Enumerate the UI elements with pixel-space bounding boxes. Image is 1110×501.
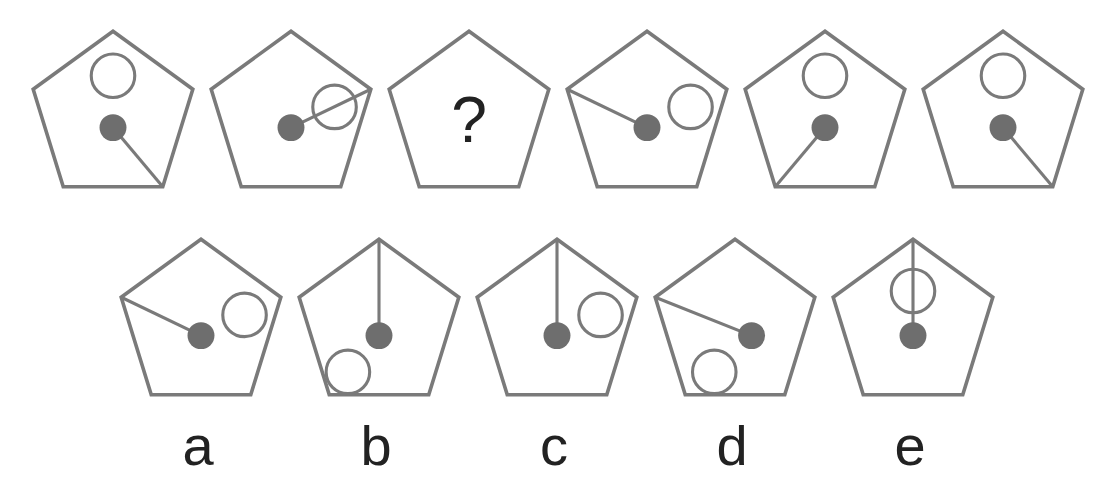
hollow-circle (326, 350, 370, 394)
sequence-figure-4 (562, 25, 732, 195)
option-label-d[interactable]: d (692, 418, 772, 474)
option-d-figure[interactable] (650, 233, 820, 403)
filled-dot (100, 114, 127, 141)
question-mark: ? (451, 84, 487, 156)
filled-dot (366, 322, 393, 349)
option-b-figure[interactable] (294, 233, 464, 403)
hollow-circle (803, 54, 847, 98)
option-a-figure[interactable] (116, 233, 286, 403)
sequence-figure-3: ? (384, 25, 554, 195)
filled-dot (634, 114, 661, 141)
connector-line (655, 297, 751, 335)
filled-dot (188, 322, 215, 349)
option-c-figure[interactable] (472, 233, 642, 403)
hollow-circle (91, 54, 135, 98)
filled-dot (738, 322, 765, 349)
hollow-circle (693, 350, 737, 394)
option-label-a[interactable]: a (158, 418, 238, 474)
sequence-figure-1 (28, 25, 198, 195)
option-e-figure[interactable] (828, 233, 998, 403)
hollow-circle (669, 85, 713, 129)
sequence-figure-5 (740, 25, 910, 195)
pentagon-shape (211, 31, 371, 186)
option-label-c[interactable]: c (514, 418, 594, 474)
sequence-figure-6 (918, 25, 1088, 195)
option-label-e[interactable]: e (870, 418, 950, 474)
hollow-circle (579, 293, 623, 337)
sequence-figure-2 (206, 25, 376, 195)
pentagon-shape (121, 239, 281, 394)
filled-dot (900, 322, 927, 349)
hollow-circle (223, 293, 267, 337)
filled-dot (812, 114, 839, 141)
filled-dot (544, 322, 571, 349)
pentagon-shape (567, 31, 727, 186)
filled-dot (278, 114, 305, 141)
option-label-b[interactable]: b (336, 418, 416, 474)
filled-dot (990, 114, 1017, 141)
hollow-circle (981, 54, 1025, 98)
